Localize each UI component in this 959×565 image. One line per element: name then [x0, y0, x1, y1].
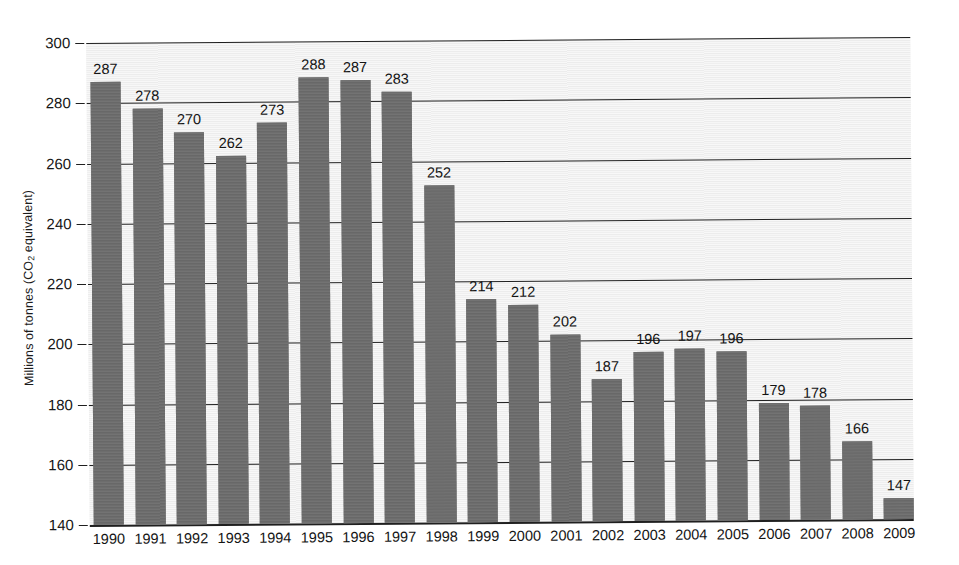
y-tick-mark-220	[77, 284, 86, 285]
bar-2003[interactable]	[633, 352, 664, 521]
bar-1990[interactable]	[91, 82, 124, 525]
bar-value-2001: 202	[535, 314, 595, 330]
gridlines	[86, 37, 910, 43]
y-tick-label-260: 260	[46, 155, 71, 172]
y-tick-mark-160	[78, 465, 87, 466]
y-axis-title: Millions of tonnes (CO2 equivalent)	[20, 93, 38, 483]
bar-1993[interactable]	[216, 156, 249, 524]
plot-area: 140160180200220240260280300 287278270262…	[86, 37, 914, 525]
y-tick-mark-260	[76, 164, 85, 165]
bar-1991[interactable]	[132, 109, 165, 525]
y-tick-mark-300	[75, 43, 84, 44]
bar-value-1990: 287	[75, 61, 135, 77]
y-axis-title-suffix: equivalent)	[21, 190, 35, 256]
y-axis-title-subscript: 2	[26, 256, 36, 261]
bar-value-1991: 278	[117, 88, 177, 104]
y-tick-label-160: 160	[48, 456, 73, 473]
gridline-160	[89, 459, 913, 466]
bar-1997[interactable]	[382, 92, 415, 523]
bar-2004[interactable]	[675, 349, 706, 521]
gridline-280	[87, 97, 911, 104]
gridline-200	[88, 338, 912, 345]
bar-1998[interactable]	[424, 185, 456, 523]
x-tick-label-2009: 2009	[869, 525, 929, 541]
bar-value-1997: 283	[367, 71, 427, 87]
bar-2000[interactable]	[508, 305, 540, 522]
bar-value-1998: 252	[409, 164, 469, 180]
y-tick-label-240: 240	[46, 215, 71, 232]
y-tick-mark-140	[79, 525, 88, 526]
bar-1999[interactable]	[467, 299, 499, 522]
bar-1996[interactable]	[340, 80, 373, 523]
y-tick-label-140: 140	[49, 516, 74, 533]
bar-2005[interactable]	[717, 352, 748, 521]
bar-value-2002: 187	[577, 358, 637, 374]
bar-value-2005: 196	[701, 330, 761, 346]
y-tick-label-200: 200	[47, 335, 72, 352]
bar-value-2007: 178	[785, 384, 845, 400]
bar-value-1993: 262	[201, 135, 261, 151]
bar-2006[interactable]	[758, 402, 789, 520]
y-tick-mark-240	[77, 224, 86, 225]
bar-2002[interactable]	[592, 380, 623, 522]
x-axis-ticks: 1990199119921993199419951996199719981999…	[0, 0, 957, 4]
bar-value-1992: 270	[159, 111, 219, 127]
bar-1995[interactable]	[299, 77, 332, 523]
y-tick-label-280: 280	[46, 94, 71, 111]
bar-chart: Millions of tonnes (CO2 equivalent) 1401…	[0, 0, 959, 565]
y-tick-label-180: 180	[48, 396, 73, 413]
y-tick-mark-200	[77, 344, 86, 345]
gridline-300	[86, 37, 910, 44]
gridline-240	[88, 218, 912, 225]
bar-1992[interactable]	[174, 133, 207, 525]
y-tick-label-220: 220	[47, 275, 72, 292]
bar-1994[interactable]	[257, 123, 290, 524]
bar-value-2008: 166	[827, 420, 887, 436]
y-tick-mark-180	[78, 405, 87, 406]
bar-value-1994: 273	[242, 102, 302, 118]
y-tick-label-300: 300	[45, 34, 70, 51]
bar-value-2000: 212	[493, 284, 553, 300]
bar-2009[interactable]	[884, 498, 914, 519]
bar-value-2009: 147	[869, 477, 929, 493]
y-axis-title-prefix: Millions of tonnes (CO	[21, 261, 36, 386]
y-tick-mark-280	[76, 103, 85, 104]
gridline-260	[87, 157, 911, 164]
